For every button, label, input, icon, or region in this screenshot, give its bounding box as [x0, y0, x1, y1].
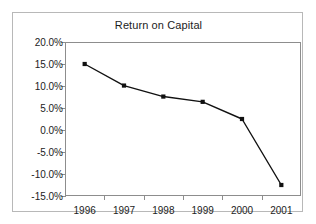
- data-point-marker: [122, 83, 126, 87]
- data-point-marker: [240, 117, 244, 121]
- y-axis-tick-label: 5.0%: [15, 103, 63, 114]
- data-point-marker: [279, 183, 283, 187]
- chart-figure: Return on Capital 20.0%15.0%10.0%5.0%0.0…: [12, 12, 303, 212]
- y-axis-tick-label: 15.0%: [15, 59, 63, 70]
- y-axis-tick-label: -5.0%: [15, 147, 63, 158]
- y-axis-tick-label: -10.0%: [15, 169, 63, 180]
- y-axis-tick-label: 10.0%: [15, 81, 63, 92]
- y-axis-tick-label: 0.0%: [15, 125, 63, 136]
- y-axis-tick-label: -15.0%: [15, 191, 63, 202]
- x-axis-tick-label: 2001: [257, 205, 305, 216]
- data-point-marker: [201, 100, 205, 104]
- y-axis-tick-label: 20.0%: [15, 37, 63, 48]
- series-line-return-on-capital: [65, 42, 301, 196]
- data-point-marker: [161, 94, 165, 98]
- series-polyline: [85, 64, 282, 185]
- data-point-marker: [83, 62, 87, 66]
- chart-title: Return on Capital: [13, 19, 304, 31]
- plot-wrapper: 20.0%15.0%10.0%5.0%0.0%-5.0%-10.0%-15.0%…: [65, 42, 301, 196]
